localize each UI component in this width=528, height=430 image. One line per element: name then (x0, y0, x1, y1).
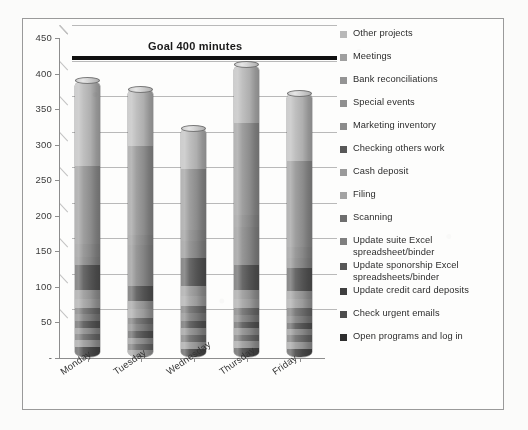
bar-segment (128, 286, 153, 302)
bar-tuesday (128, 89, 153, 357)
legend-item: Marketing inventory (340, 120, 516, 133)
legend-item: Update sponorship Excel spreadsheets/bin… (340, 260, 516, 283)
bar-segment (287, 247, 312, 258)
legend-item-label: Other projects (353, 28, 413, 40)
bar-segment (128, 309, 153, 318)
legend-item-label: Update sponorship Excel spreadsheets/bin… (353, 260, 516, 283)
bar-segment (75, 81, 100, 166)
bar-segment (234, 123, 259, 215)
legend-item-label: Scanning (353, 212, 393, 224)
legend-item: Bank reconciliations (340, 74, 516, 87)
legend-item-label: Open programs and log in (353, 331, 463, 343)
bar-segment (181, 296, 206, 306)
bar-segment (287, 161, 312, 248)
bar-segment (75, 299, 100, 308)
bar-segment (234, 65, 259, 123)
legend-item-label: Meetings (353, 51, 392, 63)
bar-segment (128, 245, 153, 286)
bar-segment (287, 258, 312, 268)
legend-swatch-icon (340, 54, 347, 61)
bar-segment (128, 301, 153, 309)
legend-swatch-icon (340, 169, 347, 176)
bar-segment (234, 299, 259, 308)
bar-segment (75, 166, 100, 244)
y-axis-tick-label: 100 (22, 281, 52, 292)
legend-item: Checking others work (340, 143, 516, 156)
legend-item-label: Check urgent emails (353, 308, 440, 320)
bar-thursday (234, 65, 259, 358)
bar-segment (128, 235, 153, 245)
bar-segment (234, 265, 259, 290)
bar-segment (181, 169, 206, 229)
legend-swatch-icon (340, 288, 347, 295)
legend-item: Other projects (340, 28, 516, 41)
bar-segment (287, 308, 312, 315)
y-axis-tick-label: 250 (22, 174, 52, 185)
legend-swatch-icon (340, 215, 347, 222)
bar-monday (75, 81, 100, 358)
legend-item-label: Update suite Excel spreadsheet/binder (353, 235, 516, 258)
bar-segment (287, 299, 312, 308)
legend-item-label: Filing (353, 189, 376, 201)
bar-segment (287, 93, 312, 160)
bar-segment (181, 128, 206, 169)
legend-swatch-icon (340, 263, 347, 270)
legend-item: Meetings (340, 51, 516, 64)
legend-item: Scanning (340, 212, 516, 225)
legend-swatch-icon (340, 238, 347, 245)
y-axis-tick-label: 450 (22, 32, 52, 43)
bar-wednesday (181, 128, 206, 357)
bar-segment (75, 314, 100, 321)
legend-swatch-icon (340, 192, 347, 199)
y-axis-tick-label: 150 (22, 245, 52, 256)
gridline (72, 61, 337, 62)
bar-friday (287, 93, 312, 357)
bar-segment (287, 316, 312, 323)
bar-segment (75, 290, 100, 299)
bar-segment (287, 268, 312, 291)
legend-swatch-icon (340, 31, 347, 38)
y-axis-line (59, 38, 60, 358)
legend-item-label: Cash deposit (353, 166, 408, 178)
bar-segment (287, 342, 312, 349)
bar-segment (181, 286, 206, 295)
legend-item: Open programs and log in (340, 331, 516, 344)
y-axis-tick-label: - (22, 352, 52, 363)
gridline (72, 25, 337, 26)
legend-item-label: Marketing inventory (353, 120, 436, 132)
legend-item-label: Bank reconciliations (353, 74, 438, 86)
bar-segment (128, 324, 153, 331)
bar-segment (75, 244, 100, 257)
legend-item: Filing (340, 189, 516, 202)
legend-item: Update suite Excel spreadsheet/binder (340, 235, 516, 258)
legend-swatch-icon (340, 77, 347, 84)
y-axis-tick-label: 300 (22, 139, 52, 150)
bar-segment (234, 215, 259, 226)
x-axis-tick (300, 358, 301, 362)
bar-segment (181, 313, 206, 321)
legend-item: Cash deposit (340, 166, 516, 179)
x-axis-label-friday: Friday (270, 352, 299, 377)
bar-top-cap (287, 90, 312, 97)
bar-segment (234, 290, 259, 299)
legend-item-label: Update credit card deposits (353, 285, 469, 297)
y-axis-tick-label: 200 (22, 210, 52, 221)
bar-segment (234, 308, 259, 315)
chart-page: 45040035030025020015010050-MondayTuesday… (0, 0, 528, 430)
legend-item: Update credit card deposits (340, 285, 516, 298)
bar-segment (128, 146, 153, 235)
y-axis-tick-label: 50 (22, 316, 52, 327)
y-axis-tick-label: 350 (22, 103, 52, 114)
goal-line-label: Goal 400 minutes (148, 40, 242, 52)
bar-segment (234, 227, 259, 265)
bar-segment (287, 291, 312, 300)
goal-line (72, 56, 337, 60)
bar-segment (181, 230, 206, 241)
legend-item: Check urgent emails (340, 308, 516, 321)
y-axis-tick-label: 400 (22, 68, 52, 79)
bar-segment (128, 89, 153, 146)
legend-item-label: Checking others work (353, 143, 444, 155)
legend-swatch-icon (340, 311, 347, 318)
legend-swatch-icon (340, 100, 347, 107)
bar-top-cap (128, 86, 153, 93)
